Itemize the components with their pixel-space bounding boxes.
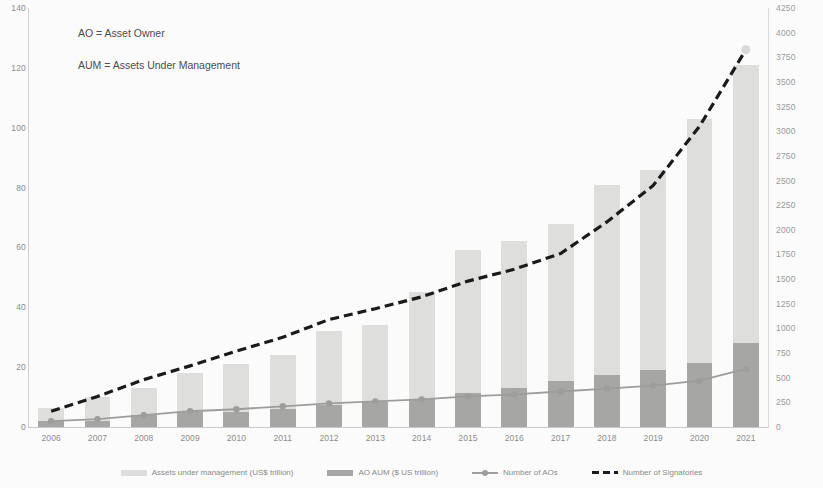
bar-group (38, 8, 64, 427)
y-axis-right-tick-label: 2500 (776, 176, 810, 186)
bar-ao-aum (316, 405, 342, 427)
y-axis-left-tick-label: 0 (2, 422, 26, 432)
legend-item[interactable]: Assets under management (US$ trillion) (121, 468, 294, 477)
chart-container: 020406080100120140 025050075010001250150… (0, 0, 823, 488)
y-axis-right-tick-label: 0 (776, 422, 810, 432)
y-axis-right-tick-label: 4000 (776, 28, 810, 38)
y-axis-right-tick-label: 3000 (776, 126, 810, 136)
x-axis-tick-label: 2011 (273, 433, 292, 443)
y-axis-right-tick-label: 4250 (776, 3, 810, 13)
bar-group (409, 8, 435, 427)
bar-ao-aum (177, 412, 203, 427)
legend-item[interactable]: AO AUM ($ US trillion) (327, 468, 438, 477)
bar-ao-aum (223, 412, 249, 427)
y-axis-right-tick-label: 3750 (776, 52, 810, 62)
bar-ao-aum (38, 421, 64, 427)
x-axis-tick-label: 2010 (227, 433, 246, 443)
x-axis-tick-label: 2012 (319, 433, 338, 443)
bar-group (501, 8, 527, 427)
bar-ao-aum (548, 381, 574, 427)
x-axis-tick-label: 2018 (597, 433, 616, 443)
y-axis-right-tick-label: 500 (776, 373, 810, 383)
y-axis-right-tick-label: 250 (776, 397, 810, 407)
legend-item[interactable]: Number of Signatories (592, 468, 703, 477)
bar-group (640, 8, 666, 427)
y-axis-right-tick-label: 2750 (776, 151, 810, 161)
y-axis-left-tick-label: 40 (2, 302, 26, 312)
x-axis-tick-label: 2014 (412, 433, 431, 443)
bar-group (733, 8, 759, 427)
y-axis-left-tick-label: 20 (2, 362, 26, 372)
bar-group (362, 8, 388, 427)
legend-swatch-line-marker-icon (472, 469, 498, 476)
bar-ao-aum (501, 388, 527, 427)
x-axis-tick-label: 2006 (42, 433, 61, 443)
bar-ao-aum (131, 415, 157, 427)
bar-group (594, 8, 620, 427)
bar-ao-aum (455, 393, 481, 427)
x-axis-tick-label: 2021 (736, 433, 755, 443)
y-axis-right-tick-label: 1250 (776, 299, 810, 309)
x-axis-tick-label: 2008 (134, 433, 153, 443)
y-axis-left-ticks: 020406080100120140 (0, 0, 26, 488)
y-axis-right-tick-label: 750 (776, 348, 810, 358)
bar-group (548, 8, 574, 427)
y-axis-left-tick-label: 140 (2, 3, 26, 13)
bar-group (316, 8, 342, 427)
y-axis-right-tick-label: 3500 (776, 77, 810, 87)
legend-item[interactable]: Number of AOs (472, 468, 558, 477)
legend-swatch-aum-icon (121, 470, 147, 476)
y-axis-right-tick-label: 3250 (776, 102, 810, 112)
bar-ao-aum (409, 399, 435, 427)
x-axis-tick-label: 2020 (690, 433, 709, 443)
annotation-line-2: AUM = Assets Under Management (78, 57, 240, 73)
bar-ao-aum (640, 370, 666, 427)
y-axis-left-tick-label: 80 (2, 183, 26, 193)
y-axis-left-tick-label: 100 (2, 123, 26, 133)
x-axis-tick-label: 2016 (505, 433, 524, 443)
bar-ao-aum (594, 375, 620, 427)
legend-item-label: Number of Signatories (623, 468, 703, 477)
bar-group (270, 8, 296, 427)
y-axis-right-tick-label: 1750 (776, 249, 810, 259)
y-axis-right-tick-label: 1000 (776, 323, 810, 333)
legend-swatch-ao-aum-icon (327, 470, 353, 476)
y-axis-right-tick-label: 2250 (776, 200, 810, 210)
x-axis-tick-label: 2019 (644, 433, 663, 443)
x-axis-tick-label: 2007 (88, 433, 107, 443)
y-axis-right-ticks: 0250500750100012501500175020002250250027… (776, 0, 822, 488)
bar-ao-aum (362, 402, 388, 427)
legend-item-label: AO AUM ($ US trillion) (358, 468, 438, 477)
bar-ao-aum (687, 363, 713, 427)
y-axis-right-tick-label: 2000 (776, 225, 810, 235)
legend-item-label: Assets under management (US$ trillion) (152, 468, 294, 477)
chart-annotation-note: AO = Asset Owner AUM = Assets Under Mana… (78, 9, 240, 89)
y-axis-right-tick-label: 1500 (776, 274, 810, 284)
x-axis-line (28, 427, 769, 428)
y-axis-left-tick-label: 60 (2, 242, 26, 252)
legend-swatch-dashed-line-icon (592, 469, 618, 476)
x-axis-tick-label: 2017 (551, 433, 570, 443)
bar-group (687, 8, 713, 427)
bar-ao-aum (270, 409, 296, 427)
annotation-line-1: AO = Asset Owner (78, 25, 240, 41)
y-axis-left-tick-label: 120 (2, 63, 26, 73)
x-axis-tick-label: 2009 (180, 433, 199, 443)
chart-legend: Assets under management (US$ trillion)AO… (0, 468, 823, 477)
x-axis-tick-label: 2013 (366, 433, 385, 443)
legend-item-label: Number of AOs (503, 468, 558, 477)
bar-ao-aum (733, 343, 759, 427)
bar-ao-aum (85, 421, 111, 427)
x-axis-tick-label: 2015 (458, 433, 477, 443)
bar-group (455, 8, 481, 427)
